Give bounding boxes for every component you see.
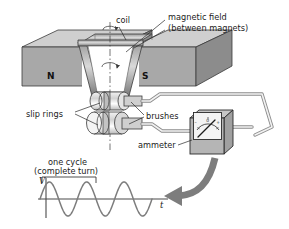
curved-arrow-to-graph — [164, 158, 215, 206]
ammeter-scale-plus: + — [216, 120, 220, 125]
graph-x-axis-label: t — [160, 200, 164, 210]
brushes-label: brushes — [146, 111, 179, 121]
slip-rings-label: slip rings — [26, 109, 63, 119]
coil-label: coil — [116, 15, 130, 25]
ammeter-scale-minus: – — [195, 120, 197, 125]
voltage-time-graph: one cycle (complete turn) V t — [34, 157, 168, 218]
ammeter: – 0 + — [190, 110, 233, 154]
diagram-canvas: N S — [0, 0, 289, 229]
ac-generator-diagram: N S — [0, 0, 289, 229]
magnetic-field-label-line1: magnetic field — [168, 12, 227, 22]
ammeter-scale-zero: 0 — [206, 118, 209, 123]
north-pole-label: N — [47, 71, 55, 81]
rotation-curl-top-icon — [103, 26, 116, 30]
graph-y-axis-label: V — [39, 176, 46, 186]
one-cycle-label-line2: (complete turn) — [34, 166, 98, 176]
ammeter-label: ammeter — [138, 140, 176, 150]
south-pole-label: S — [142, 71, 148, 81]
magnetic-field-label-line2: (between magnets) — [168, 23, 248, 33]
